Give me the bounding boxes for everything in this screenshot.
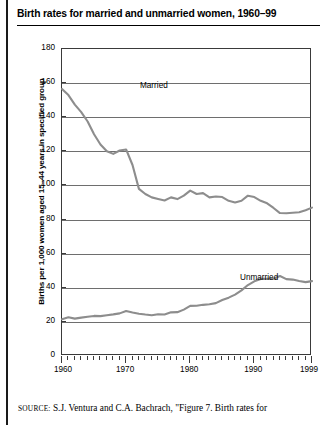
- x-tick-label-1999: 1999: [289, 365, 329, 374]
- y-tick-label-40: 40: [15, 282, 55, 291]
- x-tick-1974: [151, 356, 152, 360]
- x-tick-label-1970: 1970: [105, 365, 145, 374]
- y-tick-mark-120: [62, 150, 66, 151]
- x-tick-1996: [292, 356, 293, 360]
- y-tick-mark-180: [62, 48, 66, 49]
- x-tick-1984: [215, 356, 216, 360]
- y-tick-mark-40: [62, 287, 66, 288]
- series-line-unmarried: [62, 276, 312, 319]
- x-tick-1975: [157, 356, 158, 360]
- y-tick-label-120: 120: [15, 145, 55, 154]
- y-axis-title: Births per 1,000 women aged 15–44 years …: [37, 67, 46, 317]
- y-tick-mark-100: [62, 184, 66, 185]
- source-text: S.J. Ventura and C.A. Bachrach, "Figure …: [53, 403, 267, 413]
- x-tick-label-1990: 1990: [233, 365, 273, 374]
- x-tick-1988: [240, 356, 241, 360]
- x-tick-1966: [99, 356, 100, 360]
- x-tick-1991: [260, 356, 261, 360]
- x-tick-1987: [234, 356, 235, 360]
- x-tick-1965: [93, 356, 94, 360]
- x-tick-1998: [305, 356, 306, 360]
- x-tick-1967: [106, 356, 107, 360]
- y-tick-mark-60: [62, 253, 66, 254]
- y-tick-label-80: 80: [15, 214, 55, 223]
- x-tick-1962: [74, 356, 75, 360]
- x-tick-1980: [189, 356, 190, 363]
- x-tick-1990: [253, 356, 254, 363]
- x-tick-1976: [164, 356, 165, 360]
- series-line-married: [62, 89, 312, 213]
- x-tick-label-1960: 1960: [43, 365, 83, 374]
- x-tick-1983: [208, 356, 209, 360]
- series-label-unmarried: Unmarried: [240, 273, 278, 282]
- x-tick-1960: [61, 356, 62, 363]
- y-tick-label-20: 20: [15, 316, 55, 325]
- x-tick-1994: [279, 356, 280, 360]
- x-tick-1969: [119, 356, 120, 360]
- x-tick-1986: [228, 356, 229, 360]
- figure-container: Birth rates for married and unmarried wo…: [0, 0, 329, 425]
- x-tick-1968: [112, 356, 113, 360]
- y-tick-mark-140: [62, 116, 66, 117]
- x-tick-label-1980: 1980: [169, 365, 209, 374]
- x-tick-1979: [183, 356, 184, 360]
- x-tick-1993: [273, 356, 274, 360]
- x-tick-1992: [266, 356, 267, 360]
- x-tick-1999: [311, 356, 312, 363]
- series-label-married: Married: [140, 81, 168, 90]
- title-divider: [17, 25, 320, 26]
- y-tick-label-100: 100: [15, 179, 55, 188]
- y-tick-label-160: 160: [15, 77, 55, 86]
- x-tick-1997: [298, 356, 299, 360]
- x-tick-1972: [138, 356, 139, 360]
- source-note: SOURCE: S.J. Ventura and C.A. Bachrach, …: [18, 403, 323, 413]
- x-tick-1963: [80, 356, 81, 360]
- x-tick-1982: [202, 356, 203, 360]
- source-prefix: SOURCE:: [18, 404, 51, 413]
- y-tick-mark-20: [62, 321, 66, 322]
- x-tick-1977: [170, 356, 171, 360]
- y-tick-label-180: 180: [15, 43, 55, 52]
- x-tick-1981: [196, 356, 197, 360]
- figure-title: Birth rates for married and unmarried wo…: [17, 8, 317, 19]
- x-tick-1978: [176, 356, 177, 360]
- x-tick-1961: [67, 356, 68, 360]
- y-tick-label-140: 140: [15, 111, 55, 120]
- x-tick-1989: [247, 356, 248, 360]
- x-tick-1985: [221, 356, 222, 360]
- y-tick-mark-80: [62, 219, 66, 220]
- y-tick-mark-160: [62, 82, 66, 83]
- y-tick-label-60: 60: [15, 248, 55, 257]
- x-tick-1964: [87, 356, 88, 360]
- plot-area: MarriedUnmarried: [61, 48, 311, 355]
- x-tick-1973: [144, 356, 145, 360]
- y-tick-label-0: 0: [15, 350, 55, 359]
- x-tick-1970: [125, 356, 126, 363]
- x-tick-1995: [285, 356, 286, 360]
- x-tick-1971: [132, 356, 133, 360]
- series-group: [62, 49, 312, 356]
- page-margin-rule: [6, 0, 8, 425]
